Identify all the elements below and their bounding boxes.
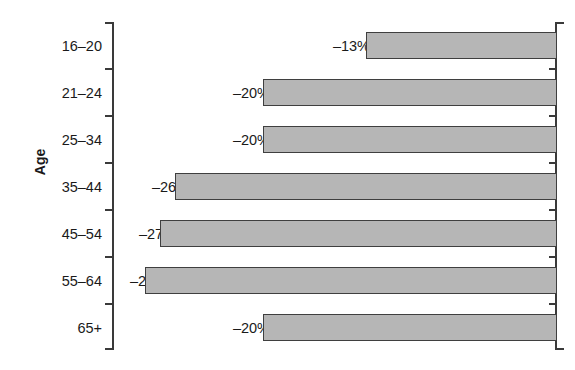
- y-axis-tick-left-6: [105, 303, 113, 305]
- y-axis-tick-left-5: [105, 256, 113, 258]
- y-tick-label-0: 16–20: [28, 39, 102, 54]
- y-tick-label-3: 35–44: [28, 180, 102, 195]
- axis-cap-top-left: [105, 22, 113, 24]
- y-tick-label-5: 55–64: [28, 274, 102, 289]
- bar-55-64: [145, 267, 557, 294]
- axis-cap-bottom-left: [105, 348, 113, 350]
- bar-45-54: [160, 220, 557, 247]
- bar-25-34: [263, 126, 557, 153]
- y-axis-tick-right-4: [549, 209, 557, 211]
- y-axis-tick-left-2: [105, 115, 113, 117]
- y-tick-label-4: 45–54: [28, 227, 102, 242]
- bar-35-44: [175, 173, 557, 200]
- y-axis-tick-right-3: [549, 162, 557, 164]
- plot-area: [112, 22, 557, 350]
- y-axis-line-left: [112, 22, 114, 350]
- axis-cap-top-right: [556, 22, 564, 24]
- bar-16-20: [366, 32, 557, 59]
- y-axis-tick-right-6: [549, 303, 557, 305]
- axis-cap-bottom-right: [556, 348, 564, 350]
- y-tick-label-2: 25–34: [28, 133, 102, 148]
- y-tick-label-1: 21–24: [28, 86, 102, 101]
- y-axis-tick-left-1: [105, 68, 113, 70]
- y-axis-tick-right-1: [549, 68, 557, 70]
- y-axis-tick-left-4: [105, 209, 113, 211]
- bar-65-plus: [263, 314, 557, 341]
- bar-chart: Age 16–20 21–24 25–34 35–44 45–54 55–64 …: [0, 0, 575, 370]
- y-axis-tick-right-2: [549, 115, 557, 117]
- y-tick-label-6: 65+: [28, 321, 102, 336]
- bar-21-24: [263, 79, 557, 106]
- y-axis-tick-left-3: [105, 162, 113, 164]
- y-axis-tick-right-5: [549, 256, 557, 258]
